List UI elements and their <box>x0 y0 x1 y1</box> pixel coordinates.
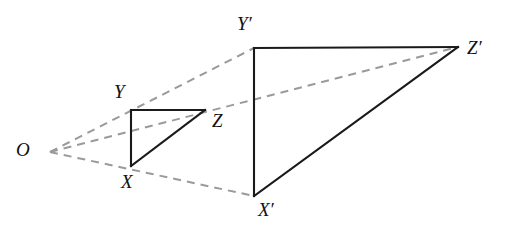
vertex-label-X: X <box>121 172 133 191</box>
large-triangle-x-prime-y-prime-z-prime <box>254 47 458 196</box>
vertex-label-Y-prime: Y′ <box>237 14 252 33</box>
vertex-label-Y: Y <box>114 82 125 101</box>
edge-XZ <box>131 110 205 166</box>
ray-O-to-X-prime <box>50 152 254 196</box>
vertex-label-X-prime: X′ <box>258 200 274 219</box>
edge-X-prime-Z-prime <box>254 47 458 196</box>
vertex-label-Z: Z <box>212 111 223 130</box>
edge-Y-prime-Z-prime <box>254 47 458 48</box>
ray-O-to-Y-prime <box>50 48 254 152</box>
vertex-label-Z-prime: Z′ <box>467 38 482 57</box>
vertex-label-O: O <box>16 140 30 159</box>
projection-figure: O Y X Z Y′ X′ Z′ <box>0 0 518 238</box>
small-triangle-xyz <box>131 110 205 166</box>
